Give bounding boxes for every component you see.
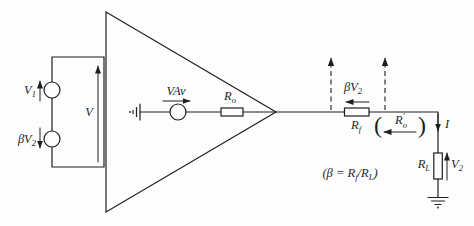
feedback-beta-v2-label: βV2	[343, 80, 363, 96]
beta-formula: (β = Rf/RL)	[322, 166, 377, 182]
rf-label: Rf	[350, 118, 363, 134]
ro-prime-paren-close: )	[418, 112, 426, 138]
ground-left-icon	[129, 104, 140, 120]
v1-label: V1	[24, 83, 36, 99]
v2-label: V2	[451, 157, 464, 173]
beta-v2-source-circle	[44, 131, 60, 147]
feedback-amplifier-figure: V1 βV2 V VAv Ro βV2 Rf ( )	[0, 0, 474, 226]
beta-v2-label: βV2	[17, 132, 37, 148]
vav-label: VAv	[166, 84, 186, 98]
ro-prime-annotation: ( ) Ro′	[374, 111, 426, 139]
ro-label: Ro	[223, 89, 236, 105]
ground-icon	[428, 198, 448, 209]
ro-prime-label: Ro′	[394, 111, 407, 130]
input-source-loop: V1 βV2 V	[17, 57, 104, 167]
v-label: V	[85, 105, 94, 119]
output-network: βV2 Rf ( ) Ro′	[243, 58, 438, 153]
ro-resistor	[221, 108, 243, 116]
rl-resistor	[434, 153, 443, 179]
rl-label: RL	[417, 157, 431, 173]
rf-resistor	[345, 108, 370, 116]
ro-prime-paren-open: (	[374, 112, 382, 138]
i-label: I	[444, 117, 450, 131]
loop-wire	[52, 57, 104, 167]
circuit-diagram: V1 βV2 V VAv Ro βV2 Rf ( )	[0, 0, 474, 226]
v1-source-circle	[44, 82, 60, 98]
dependent-source-circle	[170, 104, 186, 120]
